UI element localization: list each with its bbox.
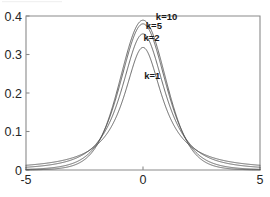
y-tick-label: 0.2 — [5, 87, 22, 101]
plot-canvas: 00.10.20.30.4 -505 k=10k=5k=2k=1 — [0, 0, 270, 197]
chart-figure: 00.10.20.30.4 -505 k=10k=5k=2k=1 — [0, 0, 270, 197]
y-tick-label: 0.3 — [5, 48, 22, 62]
y-axis-tick-labels: 00.10.20.30.4 — [5, 10, 22, 178]
x-tick-label: 5 — [257, 173, 264, 187]
scan-artifact — [2, 1, 62, 2]
annotation-k2: k=2 — [143, 32, 159, 43]
x-tick-label: -5 — [20, 173, 31, 187]
x-axis-tick-labels: -505 — [20, 173, 263, 187]
annotation-k1: k=1 — [144, 70, 161, 81]
x-tick-label: 0 — [140, 173, 147, 187]
curve-k2 — [26, 34, 260, 167]
curve-k5 — [26, 24, 260, 169]
y-tick-label: 0.4 — [5, 10, 22, 24]
y-tick-label: 0.1 — [5, 125, 22, 139]
annotation-k5: k=5 — [146, 20, 163, 31]
curve-k1 — [26, 47, 260, 165]
series-annotations: k=10k=5k=2k=1 — [143, 11, 177, 82]
